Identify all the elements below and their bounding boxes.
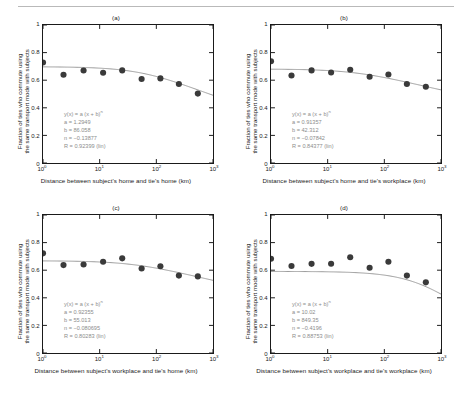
- panel-a-xtick-2: 102: [152, 166, 161, 172]
- panel-b-fit-b: b = 42.312: [292, 126, 334, 134]
- panel-a-ytick-5: 1: [36, 21, 39, 27]
- panel-c-fit-equation: y(x) = a (x + b)n: [64, 300, 106, 308]
- data-point: [60, 262, 66, 268]
- data-point: [385, 259, 391, 265]
- panel-b-xtick-0: 100: [265, 166, 274, 172]
- panel-a: (a) Fraction of ties who commute using t…: [2, 14, 230, 210]
- panel-b-ylabel-line1: Fraction of ties who commute using: [244, 36, 251, 166]
- panel-c-ylabel-line1: Fraction of ties who commute using: [16, 226, 23, 356]
- panel-d-tag: (d): [230, 204, 458, 211]
- panel-d-ytick-4: 0.8: [259, 239, 267, 245]
- panel-d-ytick-2: 0.4: [259, 295, 267, 301]
- panel-a-ytick-2: 0.4: [31, 105, 39, 111]
- data-point: [309, 261, 315, 267]
- panel-d-fit-b: b = 849.35: [292, 316, 334, 324]
- data-point: [60, 72, 66, 78]
- panel-d-fit-equation: y(x) = a (x + b)n: [292, 300, 334, 308]
- panel-b-xtick-3: 103: [437, 166, 446, 172]
- panel-c-xlabel: Distance between subject's workplace and…: [2, 367, 230, 374]
- panel-c: (c) Fraction of ties who commute using t…: [2, 204, 230, 400]
- panel-d-xtick-1: 101: [323, 356, 332, 362]
- panel-c-ylabel-line2: the same transport mode with subjects: [23, 226, 30, 356]
- panel-a-ytick-1: 0.2: [31, 133, 39, 139]
- panel-c-xtick-3: 103: [209, 356, 218, 362]
- panel-d-xlabel: Distance between subject's workplace and…: [230, 367, 458, 374]
- panel-b-xtick-1: 101: [323, 166, 332, 172]
- panel-a-ytick-3: 0.6: [31, 77, 39, 83]
- panel-d-ytick-5: 1: [264, 211, 267, 217]
- panel-d-xtick-3: 103: [437, 356, 446, 362]
- panel-c-fit-r: R = 0.80283 (lin): [64, 332, 106, 340]
- panel-d: (d) Fraction of ties who commute using t…: [230, 204, 458, 400]
- data-point: [119, 255, 125, 261]
- panel-c-tag: (c): [2, 204, 230, 211]
- panel-c-ytick-5: 1: [36, 211, 39, 217]
- data-point: [347, 254, 353, 260]
- panel-a-fit-r: R = 0.92399 (lin): [64, 142, 106, 150]
- panel-b-fit-annotation: y(x) = a (x + b)n a = 0.91357 b = 42.312…: [292, 110, 334, 150]
- panel-b-xlabel: Distance between subject's home and tie'…: [230, 177, 458, 184]
- data-point: [328, 69, 334, 75]
- panel-d-xtick-2: 102: [380, 356, 389, 362]
- panel-b-ytick-2: 0.4: [259, 105, 267, 111]
- panel-c-ytick-4: 0.8: [31, 239, 39, 245]
- data-point: [81, 67, 87, 73]
- panel-a-ylabel-line1: Fraction of ties who commute using: [16, 36, 23, 166]
- panel-a-fit-b: b = 86.058: [64, 126, 106, 134]
- panel-a-xlabel: Distance between subject's home and tie'…: [2, 177, 230, 184]
- panel-c-fit-n: n = −0.080695: [64, 324, 106, 332]
- panel-d-fit-r: R = 0.88753 (lin): [292, 332, 334, 340]
- panel-a-fit-equation: y(x) = a (x + b)n: [64, 110, 106, 118]
- panel-b-ytick-4: 0.8: [259, 49, 267, 55]
- panel-b-ytick-5: 1: [264, 21, 267, 27]
- data-point: [81, 261, 87, 267]
- panel-c-ylabel: Fraction of ties who commute using the s…: [16, 226, 31, 356]
- panel-a-fit-n: n = −0.13877: [64, 134, 106, 142]
- data-point: [347, 67, 353, 73]
- panel-b: (b) Fraction of ties who commute using t…: [230, 14, 458, 210]
- panel-a-fit-a: a = 1.2949: [64, 118, 106, 126]
- data-point: [404, 81, 410, 87]
- panel-c-ytick-3: 0.6: [31, 267, 39, 273]
- data-point: [195, 91, 201, 97]
- panel-d-ylabel: Fraction of ties who commute using the s…: [244, 226, 259, 356]
- panel-d-fit-annotation: y(x) = a (x + b)n a = 10.02 b = 849.35 n…: [292, 300, 334, 340]
- data-point: [100, 259, 106, 265]
- panel-b-tag: (b): [230, 14, 458, 21]
- figure-canvas: (a) Fraction of ties who commute using t…: [0, 0, 462, 400]
- panel-c-ytick-1: 0.2: [31, 323, 39, 329]
- data-point: [423, 279, 429, 285]
- data-point: [139, 76, 145, 82]
- panel-a-xtick-0: 100: [37, 166, 46, 172]
- panel-d-xtick-0: 100: [265, 356, 274, 362]
- data-point: [367, 265, 373, 271]
- data-point: [100, 70, 106, 76]
- panel-b-ytick-3: 0.6: [259, 77, 267, 83]
- data-point: [309, 67, 315, 73]
- panel-b-fit-n: n = −0.07842: [292, 134, 334, 142]
- panel-a-ylabel-line2: the same transport mode with subjects: [23, 36, 30, 166]
- data-point: [119, 67, 125, 73]
- data-point: [288, 263, 294, 269]
- data-point: [367, 74, 373, 80]
- panel-c-fit-a: a = 0.92355: [64, 308, 106, 316]
- data-point: [288, 72, 294, 78]
- panel-b-fit-r: R = 0.84377 (lin): [292, 142, 334, 150]
- panel-b-fit-equation: y(x) = a (x + b)n: [292, 110, 334, 118]
- panel-a-tag: (a): [2, 14, 230, 21]
- panel-a-ylabel: Fraction of ties who commute using the s…: [16, 36, 31, 166]
- panel-b-fit-a: a = 0.91357: [292, 118, 334, 126]
- panel-c-fit-annotation: y(x) = a (x + b)n a = 0.92355 b = 55.013…: [64, 300, 106, 340]
- panel-d-fit-n: n = −0.4196: [292, 324, 334, 332]
- data-point: [385, 71, 391, 77]
- panel-a-fit-annotation: y(x) = a (x + b)n a = 1.2949 b = 86.058 …: [64, 110, 106, 150]
- panel-a-xtick-1: 101: [95, 166, 104, 172]
- panel-d-ytick-3: 0.6: [259, 267, 267, 273]
- panel-d-ylabel-line2: the same transport mode with subjects: [251, 226, 258, 356]
- panel-d-ylabel-line1: Fraction of ties who commute using: [244, 226, 251, 356]
- panel-c-fit-b: b = 55.013: [64, 316, 106, 324]
- panel-c-xtick-2: 102: [152, 356, 161, 362]
- panel-c-ytick-2: 0.4: [31, 295, 39, 301]
- data-point: [176, 81, 182, 87]
- panel-b-ylabel-line2: the same transport mode with subjects: [251, 36, 258, 166]
